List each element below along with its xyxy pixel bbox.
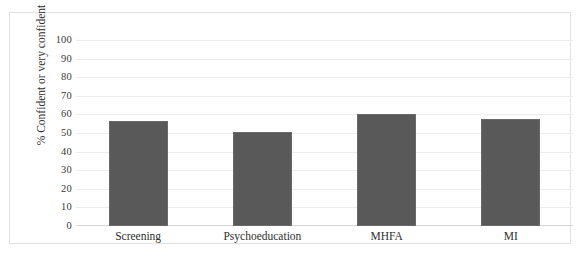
clipped-title-fragment [0,0,581,9]
x-tick-label: Psychoeducation [200,229,324,243]
y-axis-tick-labels: 100 90 80 70 60 50 40 30 20 10 0 [44,40,72,226]
bar-screening[interactable] [109,121,168,226]
gridline-100 [76,40,573,41]
chart-screenshot: % Confident or very confident 100 90 80 … [0,0,581,255]
x-tick-label: Screening [76,229,200,243]
y-tick-label: 50 [46,128,72,138]
y-tick-label: 70 [46,91,72,101]
y-tick-label: 0 [46,221,72,231]
x-tick-label: MI [449,229,573,243]
bar-mi[interactable] [481,119,540,226]
gridline-90 [76,59,573,60]
y-tick-label: 100 [46,35,72,45]
y-tick-label: 10 [46,202,72,212]
y-tick-label: 90 [46,54,72,64]
bar-mhfa[interactable] [357,114,416,226]
y-tick-label: 30 [46,165,72,175]
plot-area [76,40,573,226]
y-tick-label: 60 [46,109,72,119]
y-tick-label: 20 [46,184,72,194]
gridline-80 [76,77,573,78]
gridline-70 [76,96,573,97]
gridline-60 [76,114,573,115]
y-tick-label: 80 [46,72,72,82]
bar-psychoeducation[interactable] [233,132,292,226]
x-axis-tick-labels: Screening Psychoeducation MHFA MI [76,229,573,249]
y-tick-label: 40 [46,147,72,157]
x-tick-label: MHFA [325,229,449,243]
chart-frame: % Confident or very confident 100 90 80 … [9,12,571,244]
